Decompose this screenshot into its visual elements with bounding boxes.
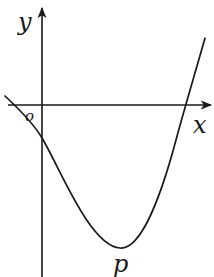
y-axis-label: y [17, 8, 32, 36]
minimum-point-label: p [113, 250, 128, 277]
origin-label: o [25, 107, 34, 125]
function-graph: y x o p [0, 0, 214, 277]
x-axis-label: x [193, 111, 207, 139]
function-curve [5, 38, 205, 248]
